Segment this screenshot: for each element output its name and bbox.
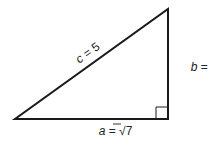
triangle-diagram: c = 5 b = 3 a = √7	[0, 0, 209, 145]
right-angle-marker	[156, 107, 168, 119]
base-eq: =	[105, 124, 119, 138]
right-triangle	[15, 9, 168, 119]
base-radicand: 7	[126, 124, 133, 138]
vertical-eq: = 3	[197, 60, 209, 74]
hypotenuse-label: c = 5	[73, 39, 103, 66]
base-label: a = √7	[82, 124, 142, 138]
vertical-side-label: b = 3	[174, 60, 209, 74]
